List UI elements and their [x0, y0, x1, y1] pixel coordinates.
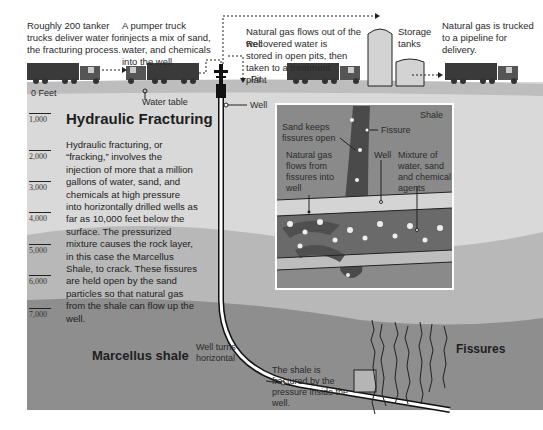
diagram-title: Hydraulic Fracturing [66, 110, 213, 127]
depth-3000: 3,000 [29, 183, 47, 192]
label-zero-feet: 0 Feet [31, 88, 57, 99]
label-well-turns-horizontal: Well turns horizontal [196, 342, 246, 364]
caption-storage-tanks: Storage tanks [398, 26, 434, 50]
inset-label-shale: Shale [420, 110, 443, 121]
depth-6000: 6,000 [29, 277, 47, 286]
diagram-description: Hydraulic fracturing, or “fracking,” inv… [66, 139, 198, 325]
label-shale-fractured: The shale is fractured by the pressure i… [272, 365, 356, 409]
caption-trucked-to-pipeline: Natural gas is trucked to a pipeline for… [442, 20, 542, 56]
caption-tanker-trucks: Roughly 200 tanker trucks deliver water … [27, 20, 127, 56]
inset-label-fissure: Fissure [381, 125, 411, 136]
depth-5000: 5,000 [29, 246, 47, 255]
label-marcellus-shale: Marcellus shale [92, 348, 189, 363]
depth-2000: 2,000 [29, 152, 47, 161]
depth-1000: 1,000 [29, 115, 47, 124]
label-water-table: Water table [142, 97, 188, 108]
inset-label-sand-keeps: Sand keeps fissures open [282, 122, 344, 144]
inset-label-mixture: Mixture of water, sand and chemical agen… [398, 150, 454, 194]
depth-7000: 7,000 [29, 310, 47, 319]
delivery-truck-icon [445, 63, 518, 84]
label-fissures: Fissures [456, 342, 505, 356]
label-pit: Pit [251, 74, 262, 85]
caption-pumper-truck: A pumper truck injects a mix of sand, wa… [122, 20, 212, 68]
depth-4000: 4,000 [29, 214, 47, 223]
inset-label-gas-flows: Natural gas flows from fissures into wel… [286, 150, 336, 194]
inset-label-well: Well [374, 150, 391, 161]
label-well: Well [250, 100, 267, 111]
fracture-zone-marker [354, 370, 376, 392]
